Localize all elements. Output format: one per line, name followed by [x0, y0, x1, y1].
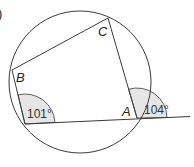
side-BC	[12, 18, 108, 70]
part-label: )	[0, 6, 2, 21]
cyclic-quadrilateral-diagram: ) C B A 101° 104°	[0, 0, 194, 167]
side-CA	[108, 18, 137, 118]
angle-label-101: 101°	[27, 107, 52, 121]
vertex-label-C: C	[98, 24, 108, 39]
angle-label-104: 104°	[144, 103, 169, 117]
vertex-label-B: B	[16, 70, 25, 85]
circumcircle	[9, 11, 151, 153]
vertex-label-A: A	[121, 104, 131, 119]
